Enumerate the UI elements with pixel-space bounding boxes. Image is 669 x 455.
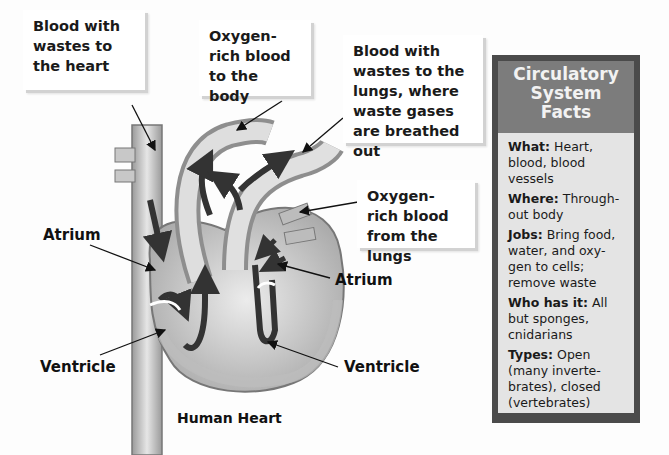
label-ventricle-left: Ventricle	[40, 358, 116, 376]
callout-blood-wastes-to-heart: Blood with wastes to the heart	[23, 10, 145, 90]
callout-oxygen-rich-from-lungs: Oxygen-rich blood from the lungs	[357, 180, 475, 248]
fact-jobs: Jobs: Bring food, water, and oxy-gen to …	[508, 227, 628, 291]
facts-title-line: Facts	[498, 103, 634, 122]
diagram-stage: Blood with wastes to the heart Oxygen-ri…	[0, 0, 669, 455]
fact-key: Who has it:	[508, 295, 588, 310]
fact-who-has-it: Who has it: All but sponges, cnidarians	[508, 295, 628, 343]
fact-key: Jobs:	[508, 227, 543, 242]
label-atrium-left: Atrium	[43, 226, 101, 244]
fact-key: Types:	[508, 347, 553, 362]
fact-key: What:	[508, 139, 550, 154]
callout-text: Oxygen-rich blood to the body	[209, 28, 291, 104]
facts-title-line: Circulatory	[498, 65, 634, 84]
callout-text: Blood with wastes to the heart	[33, 18, 120, 74]
label-ventricle-right: Ventricle	[344, 358, 420, 376]
fact-types: Types: Open (many inverte-brates), close…	[508, 347, 628, 411]
facts-panel-body: What: Heart, blood, blood vessels Where:…	[498, 133, 634, 413]
figure-caption: Human Heart	[177, 410, 282, 426]
facts-panel: Circulatory System Facts What: Heart, bl…	[492, 55, 640, 423]
facts-title-line: System	[498, 84, 634, 103]
callout-blood-wastes-to-lungs: Blood with wastes to the lungs, where wa…	[343, 35, 483, 143]
label-atrium-right: Atrium	[335, 271, 393, 289]
callout-text: Blood with wastes to the lungs, where wa…	[353, 43, 464, 159]
fact-what: What: Heart, blood, blood vessels	[508, 139, 628, 187]
facts-panel-title: Circulatory System Facts	[498, 61, 634, 133]
fact-key: Where:	[508, 191, 559, 206]
callout-oxygen-rich-to-body: Oxygen-rich blood to the body	[199, 20, 311, 96]
fact-where: Where: Through-out body	[508, 191, 628, 223]
